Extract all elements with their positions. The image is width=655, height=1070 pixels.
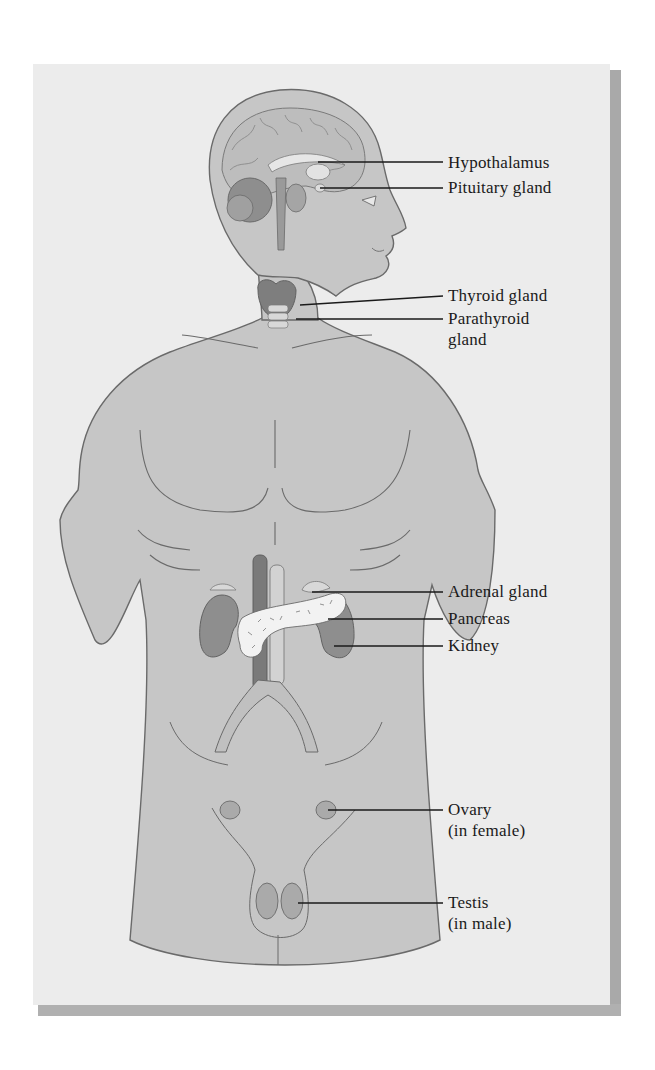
label-hypothalamus-text: Hypothalamus <box>448 152 550 173</box>
label-kidney: Kidney <box>448 635 499 656</box>
label-pancreas-text: Pancreas <box>448 608 510 629</box>
hypothalamus-organ <box>306 164 330 180</box>
label-ovary: Ovary (in female) <box>448 799 525 841</box>
label-kidney-text: Kidney <box>448 635 499 656</box>
label-thyroid-text: Thyroid gland <box>448 285 547 306</box>
pons <box>286 184 306 212</box>
brainstem <box>276 178 286 250</box>
label-ovary-line2: (in female) <box>448 820 525 841</box>
label-parathyroid-line1: Parathyroid <box>448 308 530 329</box>
label-adrenal-text: Adrenal gland <box>448 581 547 602</box>
label-hypothalamus: Hypothalamus <box>448 152 550 173</box>
ovary-left-organ <box>220 801 240 819</box>
testis-left-organ <box>256 883 278 919</box>
label-testis-line1: Testis <box>448 892 512 913</box>
label-pituitary-text: Pituitary gland <box>448 177 552 198</box>
label-adrenal-gland: Adrenal gland <box>448 581 547 602</box>
label-testis: Testis (in male) <box>448 892 512 934</box>
label-parathyroid-line2: gland <box>448 329 530 350</box>
label-testis-line2: (in male) <box>448 913 512 934</box>
label-thyroid-gland: Thyroid gland <box>448 285 547 306</box>
endocrine-figure <box>0 0 655 1070</box>
label-parathyroid-gland: Parathyroid gland <box>448 308 530 350</box>
label-ovary-line1: Ovary <box>448 799 525 820</box>
testis-right-organ <box>281 883 303 919</box>
leader-thyroid <box>300 296 443 305</box>
cerebellum-lobe <box>227 195 253 221</box>
label-pancreas: Pancreas <box>448 608 510 629</box>
label-pituitary-gland: Pituitary gland <box>448 177 552 198</box>
trachea-ring <box>268 305 288 312</box>
trachea-ring <box>268 313 288 320</box>
trachea-ring <box>268 321 288 328</box>
